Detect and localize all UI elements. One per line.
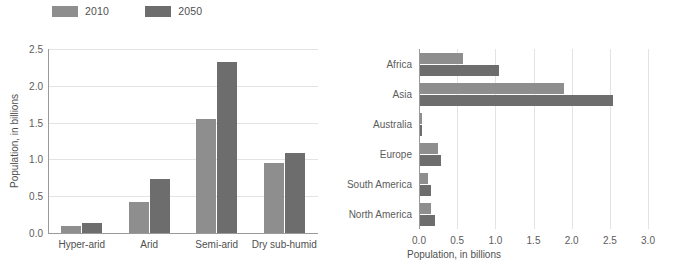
right-gridline	[534, 49, 535, 229]
right-gridline	[495, 49, 496, 229]
bar-2010-europe	[420, 143, 438, 154]
right-gridline	[648, 49, 649, 229]
left-category-label: Dry sub-humid	[252, 239, 317, 250]
left-y-axis-title: Population, in billions	[9, 94, 20, 188]
bar-2050-semi-arid	[217, 62, 237, 233]
bar-2050-europe	[420, 155, 441, 166]
right-x-tick-label: 0.5	[450, 235, 464, 246]
bar-2050-south-america	[420, 185, 431, 196]
left-category-label: Hyper-arid	[58, 239, 105, 250]
figure-root: 2010 2050 Population, in billions 0.00.5…	[0, 0, 674, 280]
left-y-tick-label: 1.5	[29, 117, 43, 128]
bar-2010-arid	[129, 202, 149, 233]
bar-2050-australia	[420, 125, 422, 136]
bar-2050-north-america	[420, 215, 435, 226]
chart-panel-left: Population, in billions 0.00.51.01.52.02…	[0, 0, 340, 280]
bar-2010-asia	[420, 83, 564, 94]
bar-2050-arid	[150, 179, 170, 233]
left-gridline	[48, 86, 318, 87]
left-gridline	[48, 49, 318, 50]
bar-2050-hyper-arid	[82, 223, 102, 233]
left-category-label: Arid	[140, 239, 158, 250]
left-y-axis	[48, 49, 49, 233]
right-category-label: North America	[349, 209, 412, 220]
bar-2010-hyper-arid	[61, 226, 81, 233]
right-x-axis-title: Population, in billions	[407, 249, 501, 260]
bar-2010-south-america	[420, 173, 428, 184]
right-x-tick-label: 1.0	[488, 235, 502, 246]
right-x-tick-label: 2.0	[565, 235, 579, 246]
bar-2010-north-america	[420, 203, 431, 214]
left-gridline	[48, 159, 318, 160]
left-y-tick-label: 1.0	[29, 154, 43, 165]
bar-2050-dry-sub-humid	[285, 153, 305, 233]
right-gridline	[572, 49, 573, 229]
right-plot-area: 0.00.51.01.52.02.53.0AfricaAsiaAustralia…	[419, 49, 648, 229]
left-y-tick-label: 2.0	[29, 80, 43, 91]
right-gridline	[610, 49, 611, 229]
bar-2010-africa	[420, 53, 463, 64]
bar-2010-semi-arid	[196, 119, 216, 233]
bar-2050-africa	[420, 65, 499, 76]
left-category-label: Semi-arid	[195, 239, 238, 250]
right-category-label: Asia	[393, 89, 412, 100]
right-category-label: Europe	[380, 149, 412, 160]
right-gridline	[457, 49, 458, 229]
right-category-label: South America	[347, 179, 412, 190]
left-y-tick-label: 0.0	[29, 228, 43, 239]
left-gridline	[48, 123, 318, 124]
right-x-tick-label: 3.0	[641, 235, 655, 246]
right-category-label: Australia	[373, 119, 412, 130]
right-x-tick-label: 1.5	[527, 235, 541, 246]
bar-2010-dry-sub-humid	[264, 163, 284, 233]
right-x-tick-label: 2.5	[603, 235, 617, 246]
left-y-tick-label: 2.5	[29, 44, 43, 55]
left-y-tick-label: 0.5	[29, 191, 43, 202]
right-x-tick-label: 0.0	[412, 235, 426, 246]
left-plot-area: 0.00.51.01.52.02.5Hyper-aridAridSemi-ari…	[48, 49, 318, 233]
right-category-label: Africa	[386, 59, 412, 70]
left-x-axis	[48, 233, 318, 234]
chart-panel-right: 0.00.51.01.52.02.53.0AfricaAsiaAustralia…	[340, 0, 674, 280]
bar-2010-australia	[420, 113, 422, 124]
bar-2050-asia	[420, 95, 613, 106]
